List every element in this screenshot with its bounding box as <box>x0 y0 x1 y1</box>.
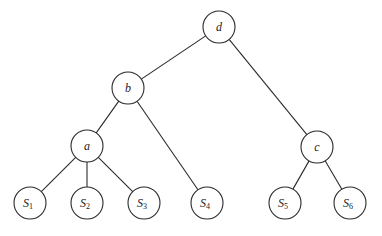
node-S2: S2 <box>71 187 103 219</box>
node-c: c <box>301 131 333 163</box>
edge-b-S4 <box>137 101 198 190</box>
nodes-layer: dbacS1S2S3S4S5S6 <box>14 11 366 219</box>
node-S4: S4 <box>191 187 223 219</box>
edge-d-c <box>229 39 307 134</box>
node-label: d <box>216 20 223 34</box>
edges-layer <box>41 36 342 192</box>
node-d: d <box>203 11 235 43</box>
node-subscript: 5 <box>284 202 288 211</box>
node-S3: S3 <box>128 187 160 219</box>
node-S6: S6 <box>334 187 366 219</box>
node-S5: S5 <box>269 187 301 219</box>
edge-a-S1 <box>41 157 75 191</box>
node-subscript: 3 <box>143 202 147 211</box>
edge-c-S5 <box>293 161 309 189</box>
node-b: b <box>112 72 144 104</box>
node-label: c <box>314 140 320 154</box>
edge-b-a <box>96 101 119 133</box>
node-subscript: 6 <box>349 202 353 211</box>
tree-diagram: dbacS1S2S3S4S5S6 <box>0 0 382 236</box>
edge-a-S3 <box>98 157 132 191</box>
node-subscript: 1 <box>29 202 33 211</box>
node-subscript: 2 <box>86 202 90 211</box>
edge-d-b <box>141 36 205 79</box>
node-subscript: 4 <box>206 202 210 211</box>
node-label: b <box>125 81 131 95</box>
node-a: a <box>71 130 103 162</box>
node-S1: S1 <box>14 187 46 219</box>
edge-c-S6 <box>325 161 342 189</box>
node-label: a <box>84 139 90 153</box>
